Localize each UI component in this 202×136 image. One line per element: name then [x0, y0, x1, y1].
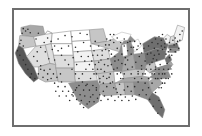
- state-tx[interactable]: [69, 81, 101, 109]
- state-al[interactable]: [124, 82, 134, 95]
- data-point: [169, 57, 171, 59]
- data-point: [159, 64, 161, 66]
- data-point: [109, 39, 111, 41]
- data-point: [137, 71, 139, 73]
- data-point: [120, 72, 122, 74]
- data-point: [155, 66, 157, 68]
- data-point: [99, 78, 101, 80]
- data-point: [150, 68, 152, 70]
- data-point: [120, 42, 122, 44]
- data-point: [164, 43, 166, 45]
- data-point: [120, 78, 122, 80]
- data-point: [47, 37, 49, 39]
- state-ne[interactable]: [73, 51, 94, 63]
- data-point: [93, 73, 95, 75]
- data-point: [79, 32, 81, 34]
- data-point: [90, 45, 92, 47]
- state-md[interactable]: [157, 65, 172, 72]
- data-point: [42, 77, 44, 79]
- data-point: [31, 73, 33, 75]
- data-point: [137, 73, 139, 75]
- data-point: [142, 73, 144, 75]
- data-point: [29, 77, 31, 79]
- data-point: [174, 37, 176, 39]
- data-point: [116, 67, 118, 69]
- state-ks[interactable]: [74, 61, 95, 71]
- data-point: [99, 94, 101, 96]
- data-point: [104, 95, 106, 97]
- data-point: [134, 41, 136, 43]
- us-choropleth-map[interactable]: [14, 10, 188, 125]
- data-point: [157, 50, 159, 52]
- data-point: [57, 86, 59, 88]
- data-point: [152, 106, 154, 108]
- data-point: [158, 73, 160, 75]
- data-point: [162, 49, 164, 51]
- data-point: [103, 90, 105, 92]
- data-point: [164, 82, 166, 84]
- state-nc[interactable]: [150, 72, 171, 80]
- state-mn[interactable]: [89, 29, 106, 44]
- data-point: [94, 64, 96, 66]
- data-point: [69, 100, 71, 102]
- data-point: [89, 64, 91, 66]
- data-point: [149, 64, 151, 66]
- data-point: [172, 39, 174, 41]
- data-point: [123, 89, 125, 91]
- data-point: [113, 42, 115, 44]
- data-point: [75, 73, 77, 75]
- data-point: [136, 49, 138, 51]
- data-point: [150, 52, 152, 54]
- data-point: [121, 100, 123, 102]
- data-point: [54, 45, 56, 47]
- state-sd[interactable]: [72, 40, 92, 52]
- data-point: [157, 43, 159, 45]
- data-point: [111, 95, 113, 97]
- map-viewport[interactable]: [14, 10, 188, 125]
- data-point: [35, 38, 37, 40]
- data-point: [171, 73, 173, 75]
- data-point: [36, 51, 38, 53]
- data-point: [158, 36, 160, 38]
- data-point: [20, 39, 22, 41]
- state-co[interactable]: [53, 55, 74, 68]
- data-point: [129, 41, 131, 43]
- data-point: [166, 63, 168, 65]
- data-point: [94, 41, 96, 43]
- data-point: [114, 60, 116, 62]
- data-point: [144, 82, 146, 84]
- data-point: [144, 73, 146, 75]
- data-point: [112, 81, 114, 83]
- data-point: [92, 85, 94, 87]
- data-point: [92, 68, 94, 70]
- data-point: [80, 56, 82, 58]
- data-point: [158, 53, 160, 55]
- data-point: [68, 64, 70, 66]
- data-point: [148, 78, 150, 80]
- data-point: [151, 73, 153, 75]
- state-nm[interactable]: [56, 68, 76, 82]
- data-point: [21, 32, 23, 34]
- data-point: [118, 96, 120, 98]
- data-point: [107, 65, 109, 67]
- data-point: [86, 84, 88, 86]
- state-or[interactable]: [19, 36, 36, 49]
- data-point: [154, 48, 156, 50]
- data-point: [106, 78, 108, 80]
- state-fl[interactable]: [147, 92, 164, 118]
- data-point: [165, 78, 167, 80]
- data-point: [57, 50, 59, 52]
- data-point: [71, 94, 73, 96]
- data-point: [68, 45, 70, 47]
- data-point: [104, 64, 106, 66]
- state-nd[interactable]: [71, 30, 91, 42]
- data-point: [43, 70, 45, 72]
- data-point: [145, 94, 147, 96]
- data-point: [157, 78, 159, 80]
- state-la[interactable]: [99, 83, 118, 96]
- data-point: [167, 51, 169, 53]
- data-point: [97, 55, 99, 57]
- data-point: [113, 68, 115, 70]
- data-point: [109, 73, 111, 75]
- data-point: [119, 84, 121, 86]
